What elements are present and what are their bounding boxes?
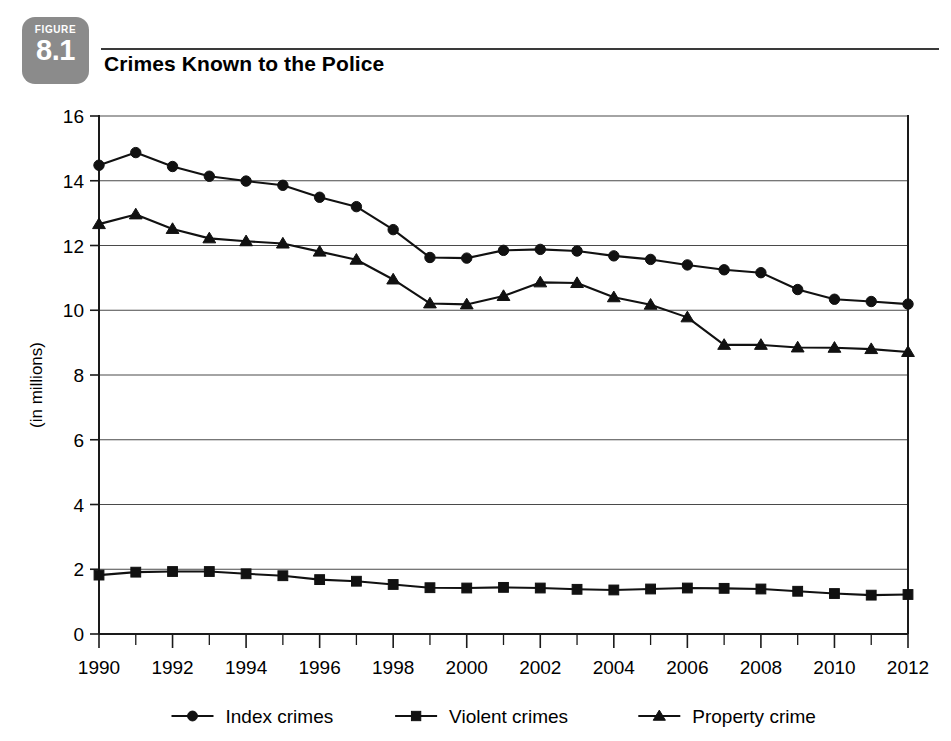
data-point-marker bbox=[462, 583, 472, 593]
data-point-marker bbox=[609, 251, 619, 261]
legend-label: Violent crimes bbox=[449, 706, 568, 727]
data-point-marker bbox=[830, 589, 840, 599]
y-axis-ticks: 0246810121416 bbox=[63, 106, 99, 645]
y-tick-label: 16 bbox=[63, 106, 84, 127]
series-violent-crimes bbox=[94, 567, 913, 600]
data-point-marker bbox=[94, 570, 104, 580]
data-point-marker bbox=[646, 584, 656, 594]
data-point-marker bbox=[903, 590, 913, 600]
y-tick-label: 10 bbox=[63, 300, 84, 321]
x-tick-label: 1998 bbox=[372, 657, 414, 678]
data-point-marker bbox=[645, 254, 655, 264]
data-point-marker bbox=[204, 567, 214, 577]
grid-lines bbox=[99, 116, 908, 634]
x-tick-label: 2008 bbox=[740, 657, 782, 678]
data-point-marker bbox=[129, 208, 142, 219]
legend-label: Property crime bbox=[692, 706, 816, 727]
data-point-marker bbox=[425, 252, 435, 262]
y-tick-label: 6 bbox=[73, 430, 84, 451]
data-point-marker bbox=[351, 201, 361, 211]
x-axis-ticks: 1990199219941996199820002002200420062008… bbox=[78, 634, 929, 678]
header-divider bbox=[101, 48, 939, 50]
x-tick-label: 1996 bbox=[298, 657, 340, 678]
data-point-marker bbox=[352, 576, 362, 586]
data-point-marker bbox=[793, 586, 803, 596]
legend-label: Index crimes bbox=[226, 706, 334, 727]
data-point-marker bbox=[278, 571, 288, 581]
figure-badge-number: 8.1 bbox=[22, 35, 89, 66]
data-point-marker bbox=[241, 569, 251, 579]
chart-container: 0246810121416 19901992199419961998200020… bbox=[0, 88, 951, 741]
x-tick-label: 2000 bbox=[446, 657, 488, 678]
x-tick-label: 2010 bbox=[813, 657, 855, 678]
series-path bbox=[99, 153, 908, 305]
figure-header: FIGURE 8.1 Crimes Known to the Police bbox=[0, 0, 951, 96]
series-property-crime bbox=[93, 208, 915, 356]
data-point-marker bbox=[94, 160, 104, 170]
data-point-marker bbox=[278, 180, 288, 190]
data-point-marker bbox=[572, 246, 582, 256]
legend-item-property-crime: Property crime bbox=[638, 706, 816, 727]
data-point-marker bbox=[682, 583, 692, 593]
data-point-marker bbox=[829, 294, 839, 304]
data-point-marker bbox=[498, 245, 508, 255]
figure-title: Crimes Known to the Police bbox=[104, 52, 384, 76]
x-tick-label: 1994 bbox=[225, 657, 268, 678]
data-point-marker bbox=[682, 260, 692, 270]
legend-item-index-crimes: Index crimes bbox=[172, 706, 334, 727]
data-point-marker bbox=[866, 590, 876, 600]
series-index-crimes bbox=[94, 147, 913, 309]
data-point-marker bbox=[241, 176, 251, 186]
data-point-marker bbox=[131, 147, 141, 157]
data-point-marker bbox=[756, 584, 766, 594]
line-chart: 0246810121416 19901992199419961998200020… bbox=[0, 88, 951, 741]
data-point-marker bbox=[499, 582, 509, 592]
data-point-marker bbox=[131, 567, 141, 577]
data-point-marker bbox=[168, 567, 178, 577]
series-path bbox=[99, 214, 908, 352]
x-tick-label: 1990 bbox=[78, 657, 120, 678]
data-point-marker bbox=[866, 296, 876, 306]
data-point-marker bbox=[462, 253, 472, 263]
data-point-marker bbox=[411, 711, 420, 720]
x-tick-label: 2002 bbox=[519, 657, 561, 678]
chart-legend: Index crimesViolent crimesProperty crime bbox=[172, 706, 816, 727]
data-point-marker bbox=[388, 224, 398, 234]
data-series bbox=[93, 147, 915, 600]
x-tick-label: 2006 bbox=[666, 657, 708, 678]
data-point-marker bbox=[315, 575, 325, 585]
data-point-marker bbox=[792, 284, 802, 294]
data-point-marker bbox=[167, 161, 177, 171]
data-point-marker bbox=[719, 583, 729, 593]
data-point-marker bbox=[387, 273, 400, 284]
y-tick-label: 8 bbox=[73, 365, 84, 386]
data-point-marker bbox=[535, 244, 545, 254]
data-point-marker bbox=[756, 267, 766, 277]
y-tick-label: 2 bbox=[73, 559, 84, 580]
data-point-marker bbox=[719, 265, 729, 275]
data-point-marker bbox=[903, 299, 913, 309]
legend-item-violent-crimes: Violent crimes bbox=[395, 706, 568, 727]
data-point-marker bbox=[188, 711, 198, 721]
y-tick-label: 14 bbox=[63, 171, 85, 192]
x-tick-label: 1992 bbox=[151, 657, 193, 678]
x-tick-label: 2012 bbox=[887, 657, 929, 678]
data-point-marker bbox=[535, 583, 545, 593]
data-point-marker bbox=[204, 171, 214, 181]
y-axis-label: (in millions) bbox=[27, 342, 46, 428]
data-point-marker bbox=[572, 584, 582, 594]
x-tick-label: 2004 bbox=[593, 657, 636, 678]
data-point-marker bbox=[314, 192, 324, 202]
y-tick-label: 12 bbox=[63, 236, 84, 257]
y-tick-label: 4 bbox=[73, 495, 84, 516]
data-point-marker bbox=[388, 580, 398, 590]
y-tick-label: 0 bbox=[73, 624, 84, 645]
data-point-marker bbox=[609, 585, 619, 595]
data-point-marker bbox=[425, 583, 435, 593]
figure-badge: FIGURE 8.1 bbox=[22, 17, 89, 84]
y-axis-title: (in millions) bbox=[27, 342, 46, 428]
